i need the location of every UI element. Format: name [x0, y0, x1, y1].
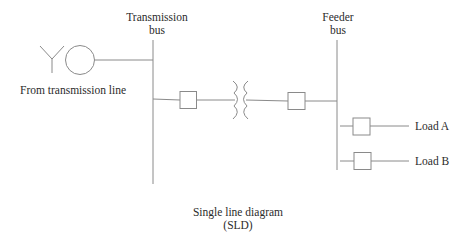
- transformer-icon: [233, 81, 248, 119]
- circuit-breaker-load-a: [353, 118, 370, 135]
- circuit-breaker-feeder-side: [288, 93, 305, 110]
- feeder-bus-label-line1: Feeder: [322, 11, 353, 23]
- feeder-bus-label-line2: bus: [330, 24, 347, 36]
- antenna-y-icon: [40, 46, 64, 73]
- branch-line-3: [246, 100, 288, 101]
- source-label: From transmission line: [20, 84, 126, 96]
- load-b-label: Load B: [415, 155, 450, 167]
- circuit-breaker-transmission-side: [180, 92, 197, 109]
- load-a-label: Load A: [415, 120, 450, 132]
- transmission-bus-label-line2: bus: [149, 24, 166, 36]
- transmission-bus-label-line1: Transmission: [126, 11, 188, 23]
- single-line-diagram: From transmission line Transmission bus …: [0, 0, 463, 246]
- diagram-caption-line2: (SLD): [223, 219, 253, 232]
- diagram-caption-line1: Single line diagram: [193, 206, 283, 219]
- branch-line-1: [153, 99, 180, 100]
- circuit-breaker-load-b: [354, 153, 371, 170]
- generator-circle-icon: [66, 46, 95, 75]
